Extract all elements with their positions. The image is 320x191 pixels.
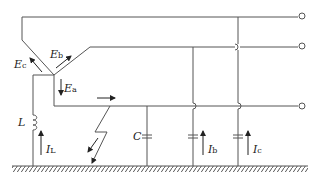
phase-b-line bbox=[54, 43, 305, 75]
label-l: L bbox=[17, 116, 25, 129]
fault-current-arrow bbox=[88, 138, 98, 152]
label-ib: Ib bbox=[207, 143, 217, 156]
label-ea: Ea bbox=[63, 82, 77, 95]
label-il: IL bbox=[45, 143, 56, 156]
terminal-c bbox=[299, 13, 305, 19]
label-c: C bbox=[133, 130, 142, 143]
ground-hatch bbox=[12, 166, 308, 172]
terminal-a bbox=[299, 103, 305, 109]
terminal-b bbox=[299, 43, 305, 49]
figure-caption-cutoff bbox=[70, 184, 250, 191]
phase-a-line bbox=[54, 75, 305, 109]
label-ic: Ic bbox=[252, 143, 262, 156]
circuit-diagram: Ec Eb Ea L IL C Ib Ic bbox=[0, 0, 320, 191]
phase-c-line bbox=[22, 13, 305, 75]
label-eb: Eb bbox=[49, 48, 63, 61]
label-ec: Ec bbox=[13, 58, 27, 71]
ground-fault-icon bbox=[92, 106, 110, 163]
